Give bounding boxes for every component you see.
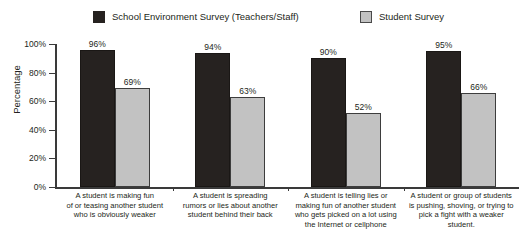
y-axis-tick-label: 60% — [29, 96, 46, 106]
y-axis-tick — [49, 73, 55, 74]
y-axis-tick-label: 40% — [29, 125, 46, 135]
y-axis-tick — [49, 101, 55, 102]
bar-series-0: 90% — [311, 58, 346, 187]
category-label-line: student. — [402, 220, 522, 230]
bar-series-1: 63% — [230, 97, 265, 187]
x-axis-category-label: A student is telling lies ormaking fun o… — [286, 191, 406, 229]
x-axis-line — [55, 187, 519, 189]
bar-value-label: 95% — [435, 40, 452, 50]
y-axis-tick — [49, 158, 55, 159]
y-axis-line — [55, 44, 57, 188]
y-axis-tick-label: 100% — [24, 39, 46, 49]
bar-value-label: 94% — [204, 42, 221, 52]
legend-item-student-survey: Student Survey — [360, 9, 444, 25]
bar-series-1: 69% — [115, 88, 150, 187]
bar-value-label: 63% — [239, 86, 256, 96]
category-label-line: of or teasing another student — [55, 201, 175, 211]
bar-group: 90%52% — [311, 44, 381, 187]
x-axis-category-label: A student is spreadingrumors or lies abo… — [171, 191, 291, 220]
category-label-line: is pushing, shoving, or trying to — [402, 201, 522, 211]
category-label-line: making fun of another student — [286, 201, 406, 211]
bar-series-1: 52% — [346, 113, 381, 187]
category-label-line: rumors or lies about another — [171, 201, 291, 211]
category-label-line: A student is making fun — [55, 191, 175, 201]
bar-value-label: 90% — [320, 47, 337, 57]
plot-area: 0%20%40%60%80%100% 96%69%94%63%90%52%95%… — [57, 44, 519, 187]
chart-legend: School Environment Survey (Teachers/Staf… — [0, 9, 524, 29]
y-axis-tick — [49, 187, 55, 188]
bar-value-label: 66% — [470, 82, 487, 92]
x-axis-category-label: A student or group of studentsis pushing… — [402, 191, 522, 229]
category-label-line: A student is telling lies or — [286, 191, 406, 201]
legend-label-series-0: School Environment Survey (Teachers/Staf… — [112, 11, 299, 23]
legend-swatch-icon-series-0 — [93, 11, 105, 23]
category-label-line: who is obviously weaker — [55, 210, 175, 220]
y-axis-tick-label: 20% — [29, 153, 46, 163]
bar-value-label: 52% — [355, 102, 372, 112]
legend-swatch-icon-series-1 — [360, 11, 372, 23]
bar-group: 95%66% — [426, 44, 496, 187]
y-axis-tick — [49, 130, 55, 131]
category-label-line: A student is spreading — [171, 191, 291, 201]
bar-group: 94%63% — [195, 44, 265, 187]
x-axis-category-labels: A student is making funof or teasing ano… — [57, 191, 524, 242]
bar-series-0: 96% — [80, 50, 115, 187]
bar-series-0: 94% — [195, 53, 230, 187]
category-label-line: A student or group of students — [402, 191, 522, 201]
bar-series-1: 66% — [461, 93, 496, 187]
legend-label-series-1: Student Survey — [379, 11, 444, 23]
y-axis-title: Percentage — [11, 40, 22, 140]
x-axis-category-label: A student is making funof or teasing ano… — [55, 191, 175, 220]
category-label-line: student behind their back — [171, 210, 291, 220]
bar-value-label: 96% — [89, 39, 106, 49]
bar-series-0: 95% — [426, 51, 461, 187]
category-label-line: who gets picked on a lot using — [286, 210, 406, 220]
category-label-line: the Internet or cellphone — [286, 220, 406, 230]
y-axis-tick — [49, 44, 55, 45]
y-axis-tick-label: 80% — [29, 68, 46, 78]
bar-group: 96%69% — [80, 44, 150, 187]
y-axis-tick-label: 0% — [34, 182, 46, 192]
bar-chart: School Environment Survey (Teachers/Staf… — [0, 0, 524, 242]
category-label-line: pick a fight with a weaker — [402, 210, 522, 220]
legend-item-school-environment-survey: School Environment Survey (Teachers/Staf… — [93, 9, 299, 25]
bar-value-label: 69% — [124, 77, 141, 87]
